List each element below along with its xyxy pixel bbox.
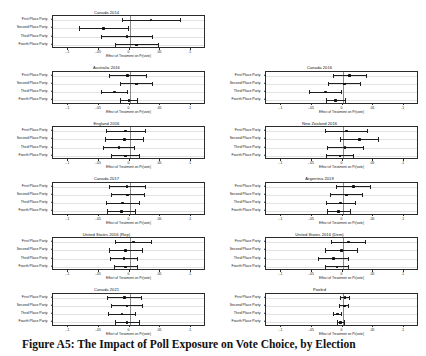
x-axis: -.1-.050.05.1Effect of Treatment on Pr(v… <box>52 326 205 337</box>
confidence-interval-cap <box>120 82 121 86</box>
x-axis: -.1-.050.05.1Effect of Treatment on Pr(v… <box>265 270 418 281</box>
y-axis-label: Fourth Place Party <box>19 97 48 101</box>
panel-new-zealand-2016: New Zealand 2016First Place PartySecond … <box>213 115 426 171</box>
point-estimate-marker <box>123 138 126 141</box>
confidence-interval-cap <box>122 18 123 22</box>
confidence-interval-cap <box>110 257 111 261</box>
plot-area <box>52 15 205 48</box>
plot-area <box>52 293 205 326</box>
x-axis: -.1-.050.05.1Effect of Treatment on Pr(v… <box>52 48 205 59</box>
y-axis-label: First Place Party <box>22 184 48 188</box>
x-axis-title: Effect of Treatment on Pr(vote) <box>265 276 418 280</box>
confidence-interval-cap <box>109 185 110 189</box>
x-axis: -.1-.050.05.1Effect of Treatment on Pr(v… <box>265 104 418 115</box>
panel-canada-2016: Canada 2016First Place PartySecond Place… <box>213 60 426 116</box>
point-estimate-marker <box>126 185 129 188</box>
confidence-interval-cap <box>143 137 144 141</box>
confidence-interval-cap <box>139 201 140 205</box>
plot-area <box>52 71 205 104</box>
x-axis-title: Effect of Treatment on Pr(vote) <box>52 165 205 169</box>
x-axis: -.1-.050.05.1Effect of Treatment on Pr(v… <box>265 215 418 226</box>
confidence-interval-cap <box>152 82 153 86</box>
confidence-interval-cap <box>111 193 112 197</box>
confidence-interval-cap <box>328 82 329 86</box>
y-axis-labels: First Place PartySecond Place PartyThird… <box>0 293 50 326</box>
y-axis-label: Third Place Party <box>21 145 48 149</box>
panel-slot-argentina-2019: Argentina 2019First Place PartySecond Pl… <box>213 171 426 227</box>
panel-title: New Zealand 2016 <box>213 121 426 126</box>
confidence-interval-cap <box>357 248 358 252</box>
confidence-interval-cap <box>144 193 145 197</box>
confidence-interval-cap <box>135 209 136 213</box>
confidence-interval-cap <box>111 304 112 308</box>
y-axis-labels: First Place PartySecond Place PartyThird… <box>213 293 263 326</box>
point-estimate-marker <box>337 210 340 213</box>
panel-united-states-2016-rep: United States 2016 (Rep)First Place Part… <box>0 226 213 282</box>
x-axis-title: Effect of Treatment on Pr(vote) <box>265 165 418 169</box>
confidence-interval-cap <box>108 312 109 316</box>
confidence-interval-cap <box>350 209 351 213</box>
x-axis: -.1-.050.05.1Effect of Treatment on Pr(v… <box>52 270 205 281</box>
x-axis-title: Effect of Treatment on Pr(vote) <box>52 110 205 114</box>
point-estimate-marker <box>343 83 346 86</box>
panel-title: Canada 2016 <box>213 65 426 70</box>
zero-reference-line <box>130 238 131 269</box>
confidence-interval-cap <box>103 146 104 150</box>
y-axis-label: Fourth Place Party <box>232 319 261 323</box>
confidence-interval-cap <box>128 26 129 30</box>
panel-title: Argentina 2019 <box>213 176 426 181</box>
confidence-interval-cap <box>370 185 371 189</box>
confidence-interval-cap <box>137 265 138 269</box>
y-axis-label: First Place Party <box>235 73 261 77</box>
confidence-interval-cap <box>341 312 342 316</box>
confidence-interval-cap <box>331 240 332 244</box>
confidence-interval-cap <box>333 74 334 78</box>
y-axis-label: Second Place Party <box>230 136 261 140</box>
y-axis-labels: First Place PartySecond Place PartyThird… <box>0 126 50 159</box>
y-axis-label: Second Place Party <box>17 25 48 29</box>
confidence-interval-cap <box>115 320 116 324</box>
y-axis-label: Third Place Party <box>234 145 261 149</box>
confidence-interval-cap <box>101 35 102 39</box>
confidence-interval-cap <box>348 257 349 261</box>
figure-root: Canada 2014First Place PartySecond Place… <box>0 0 426 356</box>
point-estimate-marker <box>348 74 351 77</box>
caption-text: The Impact of Poll Exposure on Vote Choi… <box>77 338 355 350</box>
confidence-interval-cap <box>115 240 116 244</box>
figure-caption: Figure A5: The Impact of Poll Exposure o… <box>22 338 414 351</box>
plot-area <box>265 237 418 270</box>
y-axis-label: Third Place Party <box>234 200 261 204</box>
x-axis: -.1-.050.05.1Effect of Treatment on Pr(v… <box>265 159 418 170</box>
point-estimate-marker <box>124 266 127 269</box>
y-axis-label: Second Place Party <box>17 136 48 140</box>
y-axis-label: Fourth Place Party <box>19 153 48 157</box>
x-axis-title: Effect of Treatment on Pr(vote) <box>265 332 418 336</box>
zero-reference-line <box>343 72 344 103</box>
confidence-interval-cap <box>109 74 110 78</box>
panel-united-states-2016-dem: United States 2016 (Dem)First Place Part… <box>213 226 426 282</box>
panel-slot-canada-2017: Canada 2017First Place PartySecond Place… <box>0 171 213 227</box>
y-axis-label: Fourth Place Party <box>19 42 48 46</box>
plot-area <box>52 182 205 215</box>
point-estimate-marker <box>102 27 105 30</box>
x-axis-title: Effect of Treatment on Pr(vote) <box>52 332 205 336</box>
point-estimate-marker <box>344 146 347 149</box>
confidence-interval-cap <box>363 146 364 150</box>
confidence-interval-cap <box>106 201 107 205</box>
y-axis-label: First Place Party <box>22 73 48 77</box>
confidence-interval-cap <box>101 90 102 94</box>
confidence-interval-cap <box>340 137 341 141</box>
x-axis-title: Effect of Treatment on Pr(vote) <box>265 221 418 225</box>
confidence-interval-cap <box>105 137 106 141</box>
y-axis-label: First Place Party <box>22 128 48 132</box>
panel-argentina-2019: Argentina 2019First Place PartySecond Pl… <box>213 171 426 227</box>
panel-england-2016: England 2016First Place PartySecond Plac… <box>0 115 213 171</box>
confidence-interval-cap <box>145 129 146 133</box>
point-estimate-marker <box>340 249 343 252</box>
confidence-interval-cap <box>345 98 346 102</box>
confidence-interval-cap <box>325 265 326 269</box>
y-axis-label: Second Place Party <box>17 81 48 85</box>
point-estimate-marker <box>126 194 129 197</box>
plot-area <box>265 126 418 159</box>
y-axis-label: Second Place Party <box>230 81 261 85</box>
